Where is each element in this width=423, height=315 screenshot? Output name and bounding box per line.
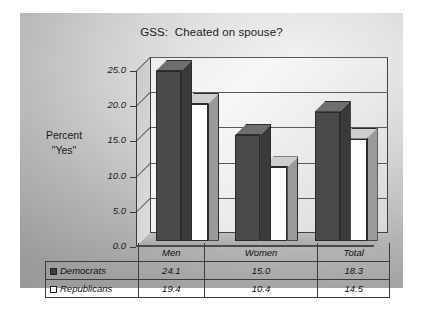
table-cell: 15.0 — [204, 262, 318, 280]
gridline — [151, 57, 388, 58]
bar-side-face — [260, 124, 271, 241]
table-row: Democrats24.115.018.3 — [46, 262, 390, 280]
bar-side-face — [287, 156, 298, 240]
bar-side-face — [208, 93, 219, 241]
table-header-corner — [46, 244, 139, 262]
bar-women-democrats — [235, 135, 260, 241]
bar-total-democrats — [315, 112, 340, 241]
legend-item-democrats: Democrats — [46, 262, 139, 280]
table-header-row: MenWomenTotal — [46, 244, 390, 262]
table-cell: 14.5 — [318, 280, 390, 298]
table-row: Republicans19.410.414.5 — [46, 280, 390, 298]
bar-front-face — [235, 135, 260, 241]
bar-front-face — [315, 112, 340, 241]
chart-title: GSS: Cheated on spouse? — [20, 26, 403, 38]
bar-men-democrats — [156, 71, 181, 241]
table-cell: 10.4 — [204, 280, 318, 298]
bar-side-face — [181, 60, 192, 241]
filled-square-icon — [50, 268, 57, 275]
y-axis-line — [136, 71, 137, 247]
chart-frame: GSS: Cheated on spouse? Percent "Yes" 0.… — [20, 13, 403, 288]
table-cell: 19.4 — [139, 280, 205, 298]
legend-item-republicans: Republicans — [46, 280, 139, 298]
table-header-men: Men — [139, 244, 205, 262]
plot-left-wall — [136, 57, 151, 247]
bar-side-face — [367, 128, 378, 241]
table-header-total: Total — [318, 244, 390, 262]
open-square-icon — [50, 286, 57, 293]
table-cell: 18.3 — [318, 262, 390, 280]
legend-label: Democrats — [60, 265, 106, 276]
plot-area — [116, 55, 403, 255]
bar-side-face — [340, 101, 351, 241]
table-header-women: Women — [204, 244, 318, 262]
bar-front-face — [156, 71, 181, 241]
table-cell: 24.1 — [139, 262, 205, 280]
data-table: MenWomenTotalDemocrats24.115.018.3Republ… — [45, 243, 390, 298]
legend-label: Republicans — [60, 283, 112, 294]
slide-canvas: GSS: Cheated on spouse? Percent "Yes" 0.… — [0, 0, 423, 315]
